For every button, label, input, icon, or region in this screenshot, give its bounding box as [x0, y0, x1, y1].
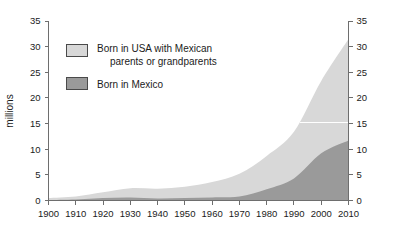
x-tick-label-1910: 1910 [65, 208, 86, 219]
x-tick-label-1990: 1990 [283, 208, 304, 219]
x-tick-label-1900: 1900 [38, 208, 59, 219]
x-tick-label-1950: 1950 [174, 208, 195, 219]
y-tick-label-left-10: 10 [30, 144, 41, 155]
legend-swatch-born-in-mexico [67, 78, 88, 90]
y-tick-label-left-5: 5 [35, 169, 40, 180]
y-tick-label-right-20: 20 [357, 92, 368, 103]
x-tick-label-1920: 1920 [92, 208, 113, 219]
x-tick-label-1970: 1970 [229, 208, 250, 219]
y-tick-label-right-25: 25 [357, 67, 368, 78]
chart-legend: Born in USA with Mexican parents or gran… [67, 43, 217, 90]
y-axis-left-ticks: 05101520253035 [30, 15, 49, 206]
y-tick-label-left-35: 35 [30, 15, 41, 26]
y-tick-label-left-0: 0 [35, 195, 40, 206]
legend-swatch-born-in-usa [67, 45, 88, 57]
x-tick-label-2010: 2010 [338, 208, 359, 219]
y-axis-right-ticks: 05101520253035 [349, 15, 368, 206]
x-tick-label-1940: 1940 [147, 208, 168, 219]
x-tick-label-1960: 1960 [202, 208, 223, 219]
y-tick-label-left-20: 20 [30, 92, 41, 103]
y-tick-label-right-0: 0 [357, 195, 362, 206]
y-tick-label-left-15: 15 [30, 118, 41, 129]
y-axis-title: millions [4, 94, 15, 127]
y-tick-label-right-10: 10 [357, 144, 368, 155]
x-tick-label-2000: 2000 [311, 208, 332, 219]
x-tick-label-1980: 1980 [256, 208, 277, 219]
y-tick-label-left-25: 25 [30, 67, 41, 78]
y-tick-label-right-5: 5 [357, 169, 362, 180]
legend-label-born-in-mexico: Born in Mexico [97, 79, 164, 90]
y-tick-label-right-15: 15 [357, 118, 368, 129]
x-axis-ticks: 1900191019201930194019501960197019801990… [38, 201, 359, 219]
y-tick-label-right-35: 35 [357, 15, 368, 26]
legend-label-born-in-usa-line2: parents or grandparents [110, 56, 217, 67]
legend-label-born-in-usa-line1: Born in USA with Mexican [97, 43, 212, 54]
y-tick-label-left-30: 30 [30, 41, 41, 52]
y-tick-label-right-30: 30 [357, 41, 368, 52]
area-chart: 05101520253035 05101520253035 1900191019… [0, 0, 397, 236]
x-tick-label-1930: 1930 [120, 208, 141, 219]
chart-figure: 05101520253035 05101520253035 1900191019… [0, 0, 397, 236]
